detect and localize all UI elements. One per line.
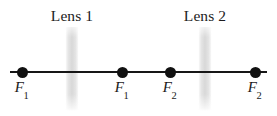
focal-symbol: F [15,79,24,95]
focal-point-dot-3 [165,67,176,78]
focal-point-dot-1 [17,67,28,78]
lens-2-label: Lens 2 [184,6,226,25]
focal-point-dot-2 [117,67,128,78]
focal-subscript: 1 [123,90,128,101]
lens-1-icon [66,27,79,111]
focal-point-label-1: F1 [15,79,29,101]
lens-2-icon [199,27,212,111]
focal-point-dot-4 [250,67,261,78]
focal-symbol: F [248,79,257,95]
lens-1-label: Lens 1 [51,6,93,25]
focal-subscript: 1 [23,90,28,101]
focal-subscript: 2 [256,90,261,101]
focal-subscript: 2 [171,90,176,101]
focal-point-label-4: F2 [248,79,262,101]
focal-symbol: F [115,79,124,95]
optical-axis-line [10,71,267,73]
optics-lens-diagram: Lens 1 Lens 2 F1 F1 F2 F2 [0,0,277,116]
focal-point-label-2: F1 [115,79,129,101]
focal-point-label-3: F2 [163,79,177,101]
focal-symbol: F [163,79,172,95]
